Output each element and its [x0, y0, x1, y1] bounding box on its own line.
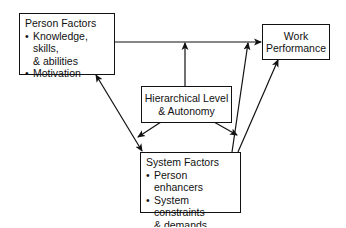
person-factors-bullet: Knowledge, skills, & abilities: [25, 30, 109, 68]
system-factors-bullet: Person enhancers: [146, 169, 235, 194]
hierarchical-to-system-right-arrow: [214, 122, 237, 135]
person-factors-box: Person Factors Knowledge, skills, & abil…: [19, 13, 115, 75]
work-performance-line1: Work: [265, 30, 327, 43]
bullet-text: Knowledge, skills,: [33, 30, 88, 55]
system-factors-bullet: System constraints & demands: [146, 194, 235, 228]
bullet-text: & abilities: [33, 55, 78, 67]
bullet-text: System constraints: [154, 194, 205, 219]
person-factors-bullet: Motivation: [25, 67, 109, 80]
person-system-bidirectional-arrow: [96, 75, 142, 151]
person-factors-title: Person Factors: [25, 17, 109, 30]
hierarchical-line2: & Autonomy: [144, 105, 229, 118]
bullet-text: Motivation: [33, 67, 81, 79]
bullet-text: & demands: [154, 219, 207, 228]
system-factors-box: System Factors Person enhancers System c…: [140, 152, 241, 213]
bullet-text: Person enhancers: [154, 169, 203, 194]
hierarchical-to-system-left-arrow: [138, 122, 161, 137]
work-performance-box: Work Performance: [262, 24, 330, 60]
hierarchical-line1: Hierarchical Level: [144, 92, 229, 105]
work-performance-line2: Performance: [265, 42, 327, 55]
system-factors-title: System Factors: [146, 156, 235, 169]
hierarchical-level-box: Hierarchical Level & Autonomy: [141, 86, 232, 123]
